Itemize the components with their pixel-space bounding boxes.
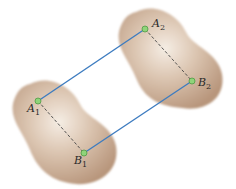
- trajectory-line-A1-A2: [38, 29, 145, 101]
- point-A1-marker: [35, 98, 41, 104]
- body-position-1: [13, 80, 117, 184]
- point-A2-marker: [142, 26, 148, 32]
- rigid-body-translation-diagram: A1 B1 A2 B2: [0, 0, 236, 189]
- point-B2-marker: [189, 78, 195, 84]
- body-position-2: [119, 8, 223, 108]
- trajectory-line-B1-B2: [84, 81, 192, 153]
